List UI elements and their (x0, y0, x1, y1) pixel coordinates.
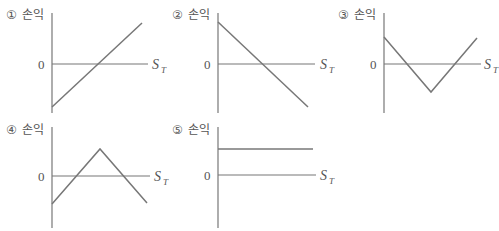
panel-2-zero-label: 0 (204, 57, 211, 72)
panel-5-y-label: 손익 (188, 123, 210, 137)
panel-1-number: ① (6, 8, 17, 22)
panel-4-zero-label: 0 (38, 169, 45, 184)
panel-1-x-label: S (152, 57, 159, 72)
panel-2: ② 손익 0 S T (172, 8, 335, 113)
panel-5-zero-label: 0 (204, 168, 211, 183)
panel-4-y-label: 손익 (22, 123, 44, 137)
panel-3-zero-label: 0 (370, 57, 377, 72)
payoff-diagrams: ① 손익 0 S T ② 손익 0 S T ③ 손익 0 S T ④ 손익 0 … (0, 0, 499, 231)
panel-4-number: ④ (6, 123, 17, 137)
panel-1-y-label: 손익 (22, 8, 44, 22)
panel-2-number: ② (172, 8, 183, 22)
panel-3: ③ 손익 0 S T (338, 8, 499, 113)
panel-4: ④ 손익 0 S T (6, 123, 169, 228)
panel-3-number: ③ (338, 8, 349, 22)
panel-1-x-label-sub: T (161, 65, 167, 75)
panel-2-x-label: S (320, 57, 327, 72)
panel-3-x-label-sub: T (493, 65, 499, 75)
panel-2-y-label: 손익 (188, 8, 210, 22)
panel-4-x-label: S (154, 169, 161, 184)
panel-4-x-label-sub: T (163, 177, 169, 187)
panel-5: ⑤ 손익 0 S T (172, 123, 335, 228)
panel-2-x-label-sub: T (329, 65, 335, 75)
panel-3-x-label: S (484, 57, 491, 72)
panel-1-payoff-line (52, 23, 142, 107)
panel-1: ① 손익 0 S T (6, 8, 167, 113)
panel-5-x-label-sub: T (329, 176, 335, 186)
panel-5-number: ⑤ (172, 123, 183, 137)
panel-1-zero-label: 0 (38, 57, 45, 72)
panel-3-y-label: 손익 (354, 8, 376, 22)
panel-5-x-label: S (320, 168, 327, 183)
